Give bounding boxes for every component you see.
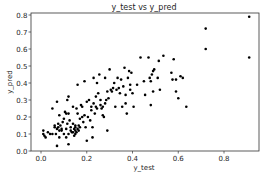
data-point	[65, 136, 68, 139]
data-point	[90, 109, 93, 112]
data-point	[96, 107, 99, 110]
data-point	[159, 89, 162, 92]
data-point	[60, 129, 63, 132]
data-point	[106, 90, 109, 93]
scatter-chart: y_test vs y_pred 0.00.20.40.60.8 0.00.10…	[0, 0, 267, 181]
data-point	[66, 99, 69, 102]
data-point	[248, 56, 251, 59]
data-point	[158, 60, 161, 63]
data-point	[177, 97, 180, 100]
data-point	[57, 123, 60, 126]
data-point	[126, 112, 129, 115]
data-point	[172, 58, 175, 61]
data-point	[75, 107, 78, 110]
x-tick-label: 0.8	[218, 155, 229, 163]
data-point	[55, 133, 58, 136]
y-tick-label: 0.5	[16, 63, 27, 71]
data-point	[72, 123, 75, 126]
data-point	[156, 77, 159, 80]
data-point	[124, 94, 127, 97]
y-axis-label: y_pred	[6, 70, 14, 94]
data-point	[128, 70, 131, 73]
data-point	[151, 73, 154, 76]
data-point	[67, 112, 70, 115]
data-point	[112, 87, 115, 90]
data-point	[170, 72, 173, 75]
data-point	[99, 104, 102, 107]
data-point	[83, 114, 86, 117]
data-point	[136, 83, 139, 86]
data-point	[69, 126, 72, 129]
y-tick-label: 0.7	[16, 29, 27, 37]
data-point	[132, 106, 135, 109]
y-axis-ticks: 0.00.10.20.30.40.50.60.70.8	[16, 12, 31, 156]
data-point	[185, 106, 188, 109]
data-point	[94, 112, 97, 115]
data-point	[65, 128, 68, 131]
data-point	[67, 133, 70, 136]
y-tick-label: 0.4	[16, 80, 28, 88]
data-point	[86, 100, 89, 103]
data-point	[143, 80, 146, 83]
data-point	[74, 124, 77, 127]
x-tick-label: 0.2	[81, 155, 92, 163]
data-point	[51, 107, 54, 110]
data-point	[111, 90, 114, 93]
data-point	[66, 123, 69, 126]
data-point	[116, 77, 119, 80]
data-point	[97, 92, 100, 95]
data-point	[92, 77, 95, 80]
data-point	[144, 94, 147, 97]
data-point	[103, 116, 106, 119]
data-point	[139, 56, 142, 59]
data-point	[86, 140, 89, 143]
data-point	[42, 129, 45, 132]
data-point	[51, 133, 54, 136]
data-point	[61, 121, 64, 124]
data-point	[152, 90, 155, 93]
data-point	[175, 90, 178, 93]
data-point	[182, 77, 185, 80]
y-tick-label: 0.1	[16, 131, 27, 139]
data-point	[175, 78, 178, 81]
data-point	[44, 136, 47, 139]
data-point	[122, 85, 125, 88]
plot-frame	[31, 13, 259, 151]
data-point	[90, 106, 93, 109]
data-point	[58, 129, 61, 132]
data-point	[63, 133, 66, 136]
data-point	[76, 83, 79, 86]
data-point	[127, 77, 130, 80]
y-tick-label: 0.8	[16, 12, 27, 20]
y-tick-label: 0.6	[16, 46, 28, 54]
data-point	[147, 56, 150, 59]
data-point	[67, 143, 70, 146]
data-point	[95, 95, 98, 98]
data-point	[91, 126, 94, 129]
data-point	[204, 48, 207, 51]
data-point	[79, 126, 82, 129]
data-point	[150, 80, 153, 83]
data-point	[106, 129, 109, 132]
data-point	[113, 82, 116, 85]
data-point	[56, 100, 59, 103]
y-tick-label: 0.3	[16, 97, 27, 105]
data-point	[115, 89, 118, 92]
data-point	[104, 77, 107, 80]
data-point	[92, 102, 95, 105]
data-point	[72, 106, 75, 109]
x-axis-label: y_test	[133, 164, 154, 172]
data-point	[81, 106, 84, 109]
data-point	[148, 77, 151, 80]
data-point	[49, 133, 52, 136]
data-point	[76, 112, 79, 115]
data-point	[88, 99, 91, 102]
data-point	[123, 66, 126, 69]
data-point	[108, 68, 111, 71]
data-point	[248, 15, 251, 18]
data-point	[56, 145, 59, 148]
data-point	[84, 126, 87, 129]
data-point	[124, 102, 127, 105]
data-point	[150, 104, 153, 107]
x-tick-label: 0.4	[127, 155, 139, 163]
